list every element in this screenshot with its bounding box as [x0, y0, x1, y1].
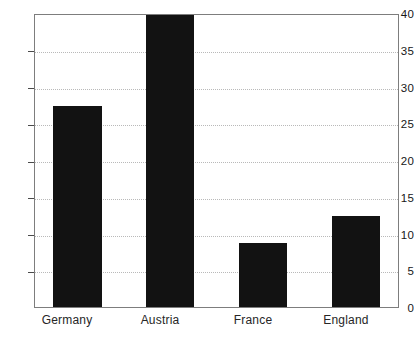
bar-austria — [146, 15, 194, 307]
plot-area — [34, 14, 399, 308]
gridline-30 — [35, 89, 398, 90]
gridline-35 — [35, 52, 398, 53]
xlabel-austria: Austria — [111, 313, 209, 327]
bar-germany — [53, 106, 102, 307]
bar-england — [332, 216, 380, 307]
xlabel-france: France — [204, 313, 302, 327]
bar-france — [239, 243, 287, 307]
xlabel-germany: Germany — [18, 313, 116, 327]
xlabel-england: England — [297, 313, 395, 327]
bar-chart: 40 35 30 25 20 15 10 5 0 Germany Austria… — [0, 0, 414, 343]
